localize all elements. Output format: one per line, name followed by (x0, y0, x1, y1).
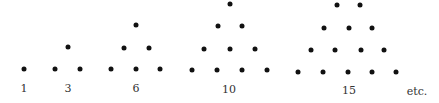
dot (190, 68, 195, 73)
dot (66, 45, 71, 50)
dot (347, 26, 352, 31)
dot (215, 68, 220, 73)
dot (147, 46, 152, 51)
dot (134, 23, 139, 28)
triangular-numbers-diagram: etc. 1361015 (0, 0, 439, 103)
dot (335, 3, 340, 8)
dot (382, 48, 387, 53)
dot (22, 67, 27, 72)
count-label: 3 (65, 82, 72, 95)
count-label: 15 (342, 84, 356, 97)
dot (53, 67, 58, 72)
dot (370, 26, 375, 31)
dot (122, 46, 127, 51)
dot (240, 24, 245, 29)
dot (359, 48, 364, 53)
dot (240, 68, 245, 73)
dot (202, 47, 207, 52)
etc-label: etc. (407, 85, 428, 98)
dot (394, 70, 399, 75)
dot (158, 67, 163, 72)
dot (346, 70, 351, 75)
dot (321, 70, 326, 75)
count-label: 10 (222, 83, 236, 96)
dot (333, 48, 338, 53)
dot (134, 67, 139, 72)
dot (216, 24, 221, 29)
dot (228, 2, 233, 7)
dot (265, 68, 270, 73)
dot (296, 70, 301, 75)
count-label: 1 (21, 82, 28, 95)
dot (109, 67, 114, 72)
count-label: 6 (133, 82, 140, 95)
dot (253, 47, 258, 52)
dot (322, 26, 327, 31)
dot (309, 48, 314, 53)
dot (78, 67, 83, 72)
dot (358, 3, 363, 8)
dot (228, 47, 233, 52)
dot (370, 70, 375, 75)
